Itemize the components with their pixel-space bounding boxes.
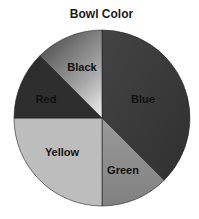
- pie-chart: Black Red Blue Yellow Green: [0, 0, 199, 219]
- slice-label-green: Green: [107, 164, 139, 176]
- slice-label-black: Black: [67, 61, 97, 73]
- pie-slice-yellow: [14, 118, 102, 206]
- slice-label-blue: Blue: [131, 93, 155, 105]
- slice-label-yellow: Yellow: [45, 146, 80, 158]
- slice-label-red: Red: [36, 93, 57, 105]
